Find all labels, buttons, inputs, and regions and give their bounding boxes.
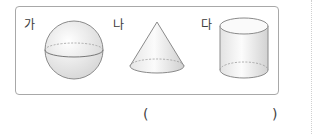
answer-paren-open: ( [143, 106, 148, 122]
cylinder-icon [218, 16, 270, 84]
answer-paren-close: ) [272, 106, 277, 122]
option-label-na: 나 [113, 15, 124, 32]
cone-icon [128, 20, 188, 80]
sphere-icon [42, 18, 106, 82]
answer-blank[interactable] [152, 106, 282, 124]
option-label-da: 다 [201, 15, 212, 32]
option-label-ga: 가 [24, 15, 35, 32]
page-divider [311, 0, 312, 134]
